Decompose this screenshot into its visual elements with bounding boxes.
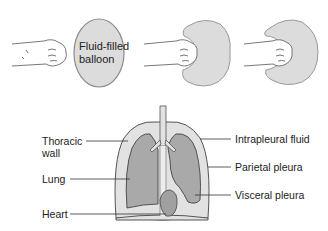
heart <box>160 190 177 216</box>
label-lung: Lung <box>42 173 65 185</box>
fist-icon <box>244 40 292 66</box>
label-heart: Heart <box>42 208 68 220</box>
label-visceral-pleura: Visceral pleura <box>235 189 304 201</box>
label-thoracic-wall-line1: Thoracic <box>42 135 82 147</box>
balloon-label: Fluid-filled balloon <box>79 40 129 66</box>
fist-icon <box>144 40 197 66</box>
balloon-label-line2: balloon <box>79 53 129 66</box>
fist-icon <box>12 40 66 66</box>
pleura-diagram: Fluid-filled balloon Thoracic wall Lung … <box>0 0 328 231</box>
label-thoracic-wall: Thoracic wall <box>42 135 82 159</box>
label-intrapleural-fluid: Intrapleural fluid <box>235 133 310 145</box>
label-thoracic-wall-line2: wall <box>42 147 82 159</box>
label-parietal-pleura: Parietal pleura <box>235 161 303 173</box>
balloon-label-line1: Fluid-filled <box>79 40 129 53</box>
